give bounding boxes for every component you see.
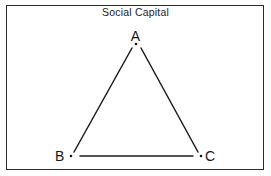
social-capital-figure: Social Capital A B C: [0, 0, 271, 176]
edge-a-c: [141, 48, 198, 152]
node-dot-b: [70, 155, 73, 158]
node-dot-c: [200, 155, 203, 158]
node-label-b: B: [55, 149, 64, 163]
edge-a-b: [74, 48, 132, 152]
node-label-c: C: [205, 149, 215, 163]
node-label-a: A: [0, 29, 271, 43]
triangle-diagram: [0, 0, 271, 176]
